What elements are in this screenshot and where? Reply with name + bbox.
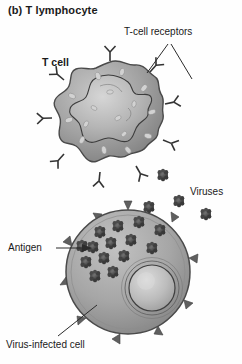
label-t-cell: T cell	[42, 56, 69, 68]
virus-infected-cell-group	[60, 201, 198, 344]
label-virus-infected-cell: Virus-infected cell	[6, 339, 85, 350]
infected-cell-nucleus	[129, 265, 175, 311]
label-t-cell-receptors: T-cell receptors	[124, 26, 192, 37]
t-lymphocyte-figure: (b) T lymphocyte T cell T-cell receptors…	[0, 0, 242, 364]
t-lymphocyte-illustration	[0, 0, 242, 364]
figure-title: (b) T lymphocyte	[8, 4, 98, 16]
leader-receptors-left	[147, 44, 168, 73]
leader-receptors-right	[171, 44, 192, 79]
label-viruses: Viruses	[190, 186, 223, 197]
label-antigen: Antigen	[8, 242, 42, 253]
